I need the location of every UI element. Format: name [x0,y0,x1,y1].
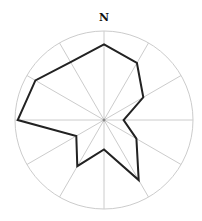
spoke-30 [104,43,149,120]
spoke-150 [104,120,149,197]
spoke-210 [60,120,105,197]
center-dot [103,119,106,122]
spoke-330 [60,43,105,120]
spoke-120 [104,120,181,165]
rose-diagram [0,0,202,221]
spoke-300 [27,76,104,121]
